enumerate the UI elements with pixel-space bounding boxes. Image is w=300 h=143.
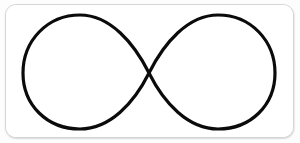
screenshot-canvas: Infinity symbol (lemniscate) [0, 0, 300, 143]
card-surface: Infinity symbol (lemniscate) [6, 5, 293, 137]
rounded-card-frame: Infinity symbol (lemniscate) [5, 4, 294, 138]
lemniscate-path [23, 15, 275, 129]
infinity-symbol-figure: Infinity symbol (lemniscate) [6, 5, 293, 137]
